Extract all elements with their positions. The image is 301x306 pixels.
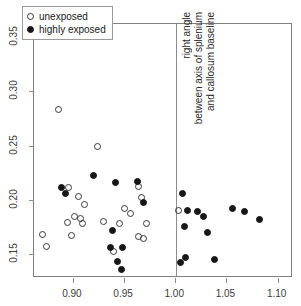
x-axis-tick-label: 0.95 [113,288,132,299]
data-point-unexposed [94,143,101,150]
plot-area [34,24,291,276]
x-axis-tick [73,278,74,283]
data-point-highly-exposed [177,259,184,266]
filled-circle-marker-icon [27,26,34,33]
legend-entry-unexposed: unexposed [27,10,106,23]
y-axis-tick-label: 0.15 [8,239,20,267]
y-axis-tick-labels: 0.150.200.250.300.35 [0,23,28,277]
data-point-unexposed [68,232,75,239]
scatter-plot-figure: 0.150.200.250.300.35 0.900.951.001.051.1… [0,0,301,306]
data-point-highly-exposed [256,216,263,223]
y-axis-tick-label-wrap: 0.20 [0,193,28,205]
legend: unexposed highly exposed [22,6,113,40]
x-axis-tick-label-wrap: 0.95 [103,283,143,301]
data-point-highly-exposed [112,179,119,186]
x-axis-tick-labels: 0.900.951.001.051.10 [33,283,292,297]
data-point-highly-exposed [200,213,207,220]
x-axis-tick-label: 1.00 [165,288,184,299]
data-point-unexposed [64,219,71,226]
y-axis-tick-label-wrap: 0.25 [0,139,28,151]
open-circle-marker-icon [27,13,34,20]
x-axis-tick [175,278,176,283]
data-point-highly-exposed [204,229,211,236]
data-point-highly-exposed [241,208,248,215]
data-point-highly-exposed [109,227,116,234]
y-axis-tick [29,91,34,92]
y-axis-tick [29,146,34,147]
data-point-unexposed [81,201,88,208]
data-point-highly-exposed [179,190,186,197]
data-point-highly-exposed [118,266,125,273]
right-angle-annotation: right angle between axis of splenium and… [181,12,217,162]
data-point-highly-exposed [181,223,188,230]
data-point-unexposed [79,220,86,227]
data-point-highly-exposed [90,172,97,179]
legend-label-highly-exposed: highly exposed [39,24,106,36]
data-point-highly-exposed [229,205,236,212]
annotation-line-3: and callosum baseline [205,12,216,111]
x-axis-tick-label-wrap: 1.00 [154,283,194,301]
data-point-highly-exposed [62,190,69,197]
annotation-line-1: right angle [181,12,192,59]
y-axis-tick-label: 0.25 [8,131,20,159]
vertical-divider [176,24,177,276]
x-axis-tick [226,278,227,283]
x-axis-tick-label: 0.90 [62,288,81,299]
data-point-highly-exposed [134,178,141,185]
x-axis-tick-label-wrap: 0.90 [52,283,92,301]
y-axis-tick [29,254,34,255]
legend-entry-highly-exposed: highly exposed [27,23,106,36]
data-point-unexposed [116,220,123,227]
y-axis-tick [29,200,34,201]
data-point-unexposed [75,193,82,200]
y-axis-tick-label-wrap: 0.30 [0,84,28,96]
data-point-unexposed [39,231,46,238]
x-axis-tick-label: 1.10 [267,288,286,299]
y-axis-tick-label-wrap: 0.15 [0,247,28,259]
x-axis-tick-label: 1.05 [216,288,235,299]
data-point-unexposed [100,218,107,225]
data-point-unexposed [43,243,50,250]
data-point-unexposed [175,207,182,214]
data-point-highly-exposed [184,207,191,214]
x-axis-tick [278,278,279,283]
plot-frame [33,23,292,277]
x-axis-tick [124,278,125,283]
data-point-highly-exposed [140,199,147,206]
data-point-highly-exposed [211,256,218,263]
legend-label-unexposed: unexposed [39,11,88,23]
x-axis-tick-label-wrap: 1.10 [257,283,297,301]
y-axis-tick-label: 0.20 [8,185,20,213]
annotation-line-2: between axis of splenium [193,12,204,124]
data-point-unexposed [55,106,62,113]
data-point-highly-exposed [114,258,121,265]
data-point-highly-exposed [119,244,126,251]
data-point-unexposed [143,220,150,227]
data-point-unexposed [140,235,147,242]
data-point-unexposed [127,210,134,217]
x-axis-tick-label-wrap: 1.05 [205,283,245,301]
y-axis-tick-label: 0.30 [8,76,20,104]
y-axis-tick-label: 0.35 [8,22,20,50]
